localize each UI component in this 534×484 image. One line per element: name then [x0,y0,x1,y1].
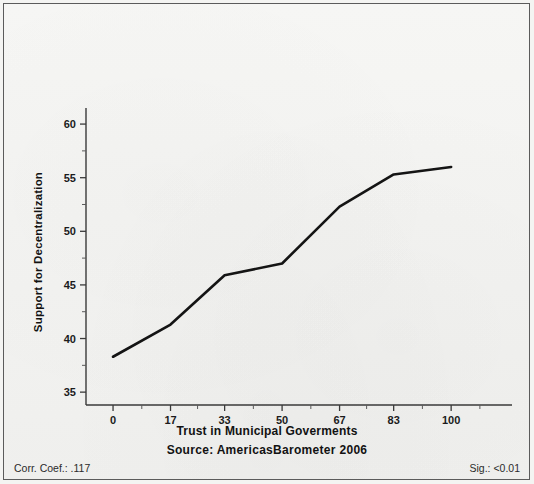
source-note: Source: AmericasBarometer 2006 [0,443,534,457]
x-axis-title: Trust in Municipal Goverments [0,424,534,438]
chart-axes [86,108,512,405]
svg-text:60: 60 [64,118,76,130]
svg-text:40: 40 [64,333,76,345]
figure-page: 35404550556001733506783100 Support for D… [0,0,534,484]
svg-text:45: 45 [64,279,76,291]
correlation-coefficient-note: Corr. Coef.: .117 [14,462,90,474]
chart-tick-labels: 35404550556001733506783100 [64,118,461,426]
data-line-support-for-decentralization [113,167,451,357]
significance-note: Sig.: <0.01 [470,462,521,474]
chart-ticks [80,124,480,411]
y-axis-title: Support for Decentralization [32,152,44,352]
chart-series-line [113,167,451,357]
svg-text:50: 50 [64,225,76,237]
line-chart-plot: 35404550556001733506783100 [0,0,534,484]
svg-text:35: 35 [64,386,76,398]
svg-text:55: 55 [64,172,76,184]
